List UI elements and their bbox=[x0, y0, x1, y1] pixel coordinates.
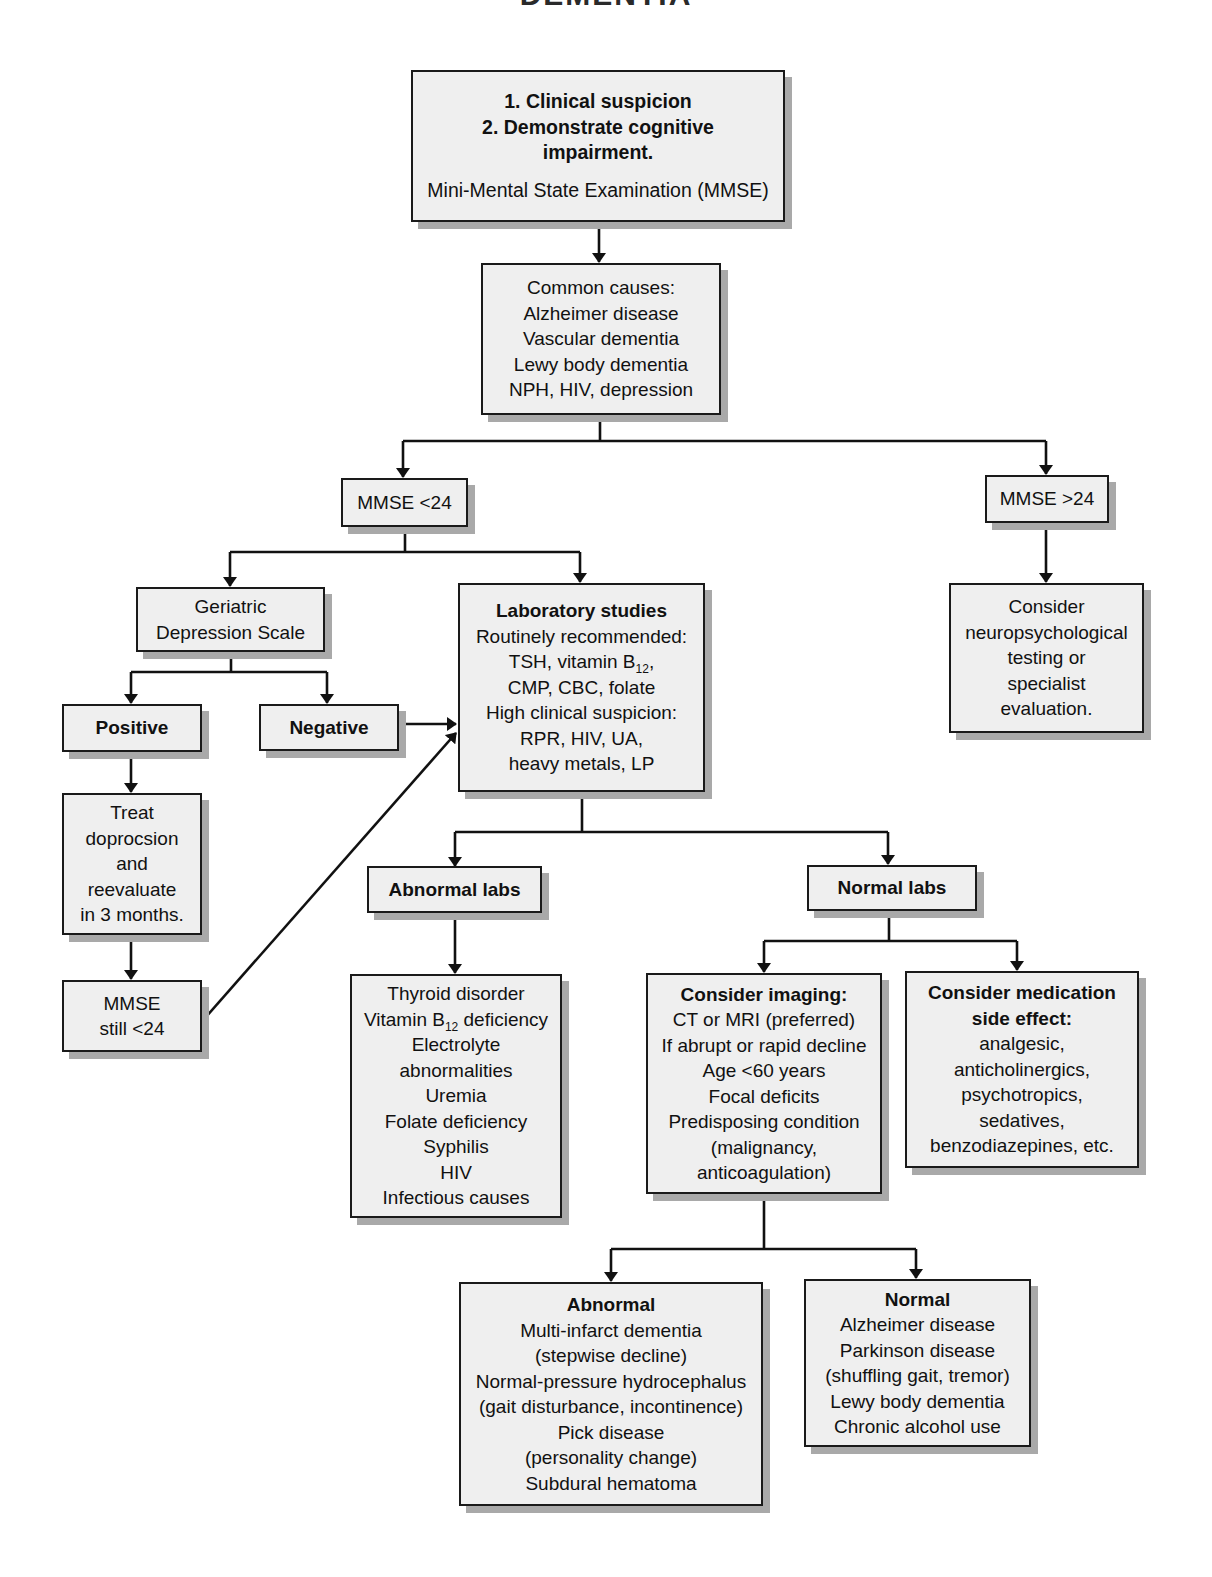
cause-item: Vascular dementia bbox=[523, 326, 679, 352]
labs-heading: Laboratory studies bbox=[496, 598, 667, 624]
labs-text: , bbox=[649, 651, 654, 672]
medication-heading: side effect: bbox=[972, 1006, 1072, 1032]
common-causes-box: Common causes: Alzheimer disease Vascula… bbox=[481, 263, 721, 415]
imaging-abnormal-heading: Abnormal bbox=[567, 1292, 656, 1318]
medication-item: benzodiazepines, etc. bbox=[930, 1133, 1114, 1159]
cause-text: Vitamin B bbox=[364, 1009, 445, 1030]
cause-item: Electrolyte bbox=[412, 1032, 501, 1058]
consider-medication-box: Consider medication side effect: analges… bbox=[905, 971, 1139, 1168]
step-1: 1. Clinical suspicion bbox=[504, 89, 691, 115]
neuropsych-line: neuropsychological bbox=[965, 620, 1128, 646]
imaging-line: Focal deficits bbox=[709, 1084, 820, 1110]
labs-text: TSH, vitamin B bbox=[509, 651, 636, 672]
cause-item: Alzheimer disease bbox=[523, 301, 678, 327]
imaging-heading: Consider imaging: bbox=[681, 982, 848, 1008]
geriatric-depression-scale-box: Geriatric Depression Scale bbox=[136, 587, 325, 652]
diagnosis-item: Normal-pressure hydrocephalus bbox=[476, 1369, 746, 1395]
mmse-still-line: MMSE bbox=[104, 991, 161, 1017]
labs-line: High clinical suspicion: bbox=[486, 700, 677, 726]
imaging-abnormal-box: Abnormal Multi-infarct dementia (stepwis… bbox=[459, 1282, 763, 1506]
labs-line: CMP, CBC, folate bbox=[508, 675, 655, 701]
cause-item: NPH, HIV, depression bbox=[509, 377, 693, 403]
diagnosis-item: (stepwise decline) bbox=[535, 1343, 687, 1369]
imaging-line: If abrupt or rapid decline bbox=[662, 1033, 867, 1059]
diagram-title: DEMENTIA bbox=[0, 0, 1212, 12]
imaging-line: Predisposing condition bbox=[668, 1109, 859, 1135]
diagnosis-item: Pick disease bbox=[558, 1420, 665, 1446]
treat-line: in 3 months. bbox=[80, 902, 184, 928]
mmse-label: Mini-Mental State Examination (MMSE) bbox=[427, 178, 768, 204]
imaging-line: Age <60 years bbox=[702, 1058, 825, 1084]
cause-item: Infectious causes bbox=[383, 1185, 530, 1211]
diagnosis-item: Chronic alcohol use bbox=[834, 1414, 1001, 1440]
neuropsych-line: specialist bbox=[1007, 671, 1085, 697]
positive-box: Positive bbox=[62, 704, 202, 752]
gds-line: Depression Scale bbox=[156, 620, 305, 646]
imaging-normal-heading: Normal bbox=[885, 1287, 950, 1313]
cause-item: Lewy body dementia bbox=[514, 352, 688, 378]
diagnosis-item: Lewy body dementia bbox=[830, 1389, 1004, 1415]
medication-item: anticholinergics, bbox=[954, 1057, 1090, 1083]
mmse-high-box: MMSE >24 bbox=[985, 475, 1109, 523]
medication-item: analgesic, bbox=[979, 1031, 1065, 1057]
cause-item: HIV bbox=[440, 1160, 472, 1186]
neuropsych-box: Consider neuropsychological testing or s… bbox=[949, 583, 1144, 733]
imaging-line: (malignancy, bbox=[711, 1135, 817, 1161]
mmse-still-line: still <24 bbox=[100, 1016, 165, 1042]
labs-line: RPR, HIV, UA, bbox=[520, 726, 643, 752]
abnormal-labs-label: Abnormal labs bbox=[389, 877, 521, 903]
imaging-line: anticoagulation) bbox=[697, 1160, 831, 1186]
medication-item: psychotropics, bbox=[961, 1082, 1082, 1108]
cause-item: Syphilis bbox=[423, 1134, 488, 1160]
diagnosis-item: Subdural hematoma bbox=[525, 1471, 696, 1497]
normal-labs-box: Normal labs bbox=[807, 865, 977, 911]
treat-line: doprocsion bbox=[86, 826, 179, 852]
labs-line: TSH, vitamin B12, bbox=[509, 649, 654, 675]
step-2: 2. Demonstrate cognitive bbox=[482, 115, 714, 141]
diagnosis-item: Parkinson disease bbox=[840, 1338, 995, 1364]
cause-item: Vitamin B12 deficiency bbox=[364, 1007, 548, 1033]
neuropsych-line: Consider bbox=[1008, 594, 1084, 620]
negative-label: Negative bbox=[289, 715, 368, 741]
cause-text: deficiency bbox=[458, 1009, 548, 1030]
consider-imaging-box: Consider imaging: CT or MRI (preferred) … bbox=[646, 973, 882, 1194]
laboratory-studies-box: Laboratory studies Routinely recommended… bbox=[458, 583, 705, 792]
imaging-line: CT or MRI (preferred) bbox=[673, 1007, 855, 1033]
abnormal-labs-box: Abnormal labs bbox=[367, 866, 542, 913]
mmse-low-label: MMSE <24 bbox=[357, 490, 452, 516]
causes-heading: Common causes: bbox=[527, 275, 675, 301]
neuropsych-line: evaluation. bbox=[1001, 696, 1093, 722]
cause-item: Uremia bbox=[425, 1083, 486, 1109]
treat-line: and bbox=[116, 851, 148, 877]
mmse-high-label: MMSE >24 bbox=[1000, 486, 1095, 512]
normal-labs-label: Normal labs bbox=[838, 875, 947, 901]
medication-heading: Consider medication bbox=[928, 980, 1116, 1006]
mmse-low-box: MMSE <24 bbox=[341, 478, 468, 527]
clinical-suspicion-box: 1. Clinical suspicion 2. Demonstrate cog… bbox=[411, 70, 785, 222]
labs-line: Routinely recommended: bbox=[476, 624, 687, 650]
treat-depression-box: Treat doprocsion and reevaluate in 3 mon… bbox=[62, 793, 202, 935]
medication-item: sedatives, bbox=[979, 1108, 1065, 1134]
step-2-cont: impairment. bbox=[543, 140, 654, 166]
cause-item: Folate deficiency bbox=[385, 1109, 528, 1135]
labs-line: heavy metals, LP bbox=[509, 751, 655, 777]
treat-line: reevaluate bbox=[88, 877, 177, 903]
positive-label: Positive bbox=[96, 715, 169, 741]
cause-item: Thyroid disorder bbox=[387, 981, 524, 1007]
negative-box: Negative bbox=[259, 704, 399, 751]
neuropsych-line: testing or bbox=[1007, 645, 1085, 671]
treat-line: Treat bbox=[110, 800, 154, 826]
mmse-still-low-box: MMSE still <24 bbox=[62, 980, 202, 1052]
diagnosis-item: (personality change) bbox=[525, 1445, 697, 1471]
diagnosis-item: (shuffling gait, tremor) bbox=[825, 1363, 1009, 1389]
gds-line: Geriatric bbox=[195, 594, 267, 620]
diagnosis-item: Alzheimer disease bbox=[840, 1312, 995, 1338]
cause-item: abnormalities bbox=[400, 1058, 513, 1084]
imaging-normal-box: Normal Alzheimer disease Parkinson disea… bbox=[804, 1279, 1031, 1447]
diagnosis-item: (gait disturbance, incontinence) bbox=[479, 1394, 743, 1420]
diagnosis-item: Multi-infarct dementia bbox=[520, 1318, 702, 1344]
abnormal-labs-causes-box: Thyroid disorder Vitamin B12 deficiency … bbox=[350, 974, 562, 1218]
